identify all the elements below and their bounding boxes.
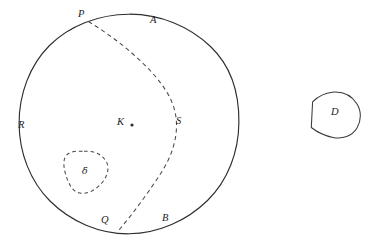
label-b: B	[162, 213, 168, 224]
label-q: Q	[101, 215, 109, 226]
diagram-svg	[0, 0, 376, 244]
k-center-point	[130, 123, 133, 126]
figure-canvas: P A R K S δ Q B D	[0, 0, 376, 244]
label-s: S	[176, 116, 181, 127]
label-k: K	[117, 117, 124, 128]
label-d: D	[331, 107, 339, 118]
main-circle	[19, 14, 239, 234]
label-a: A	[150, 15, 156, 26]
label-delta: δ	[82, 166, 88, 176]
label-r: R	[18, 120, 24, 131]
label-p: P	[78, 9, 84, 20]
